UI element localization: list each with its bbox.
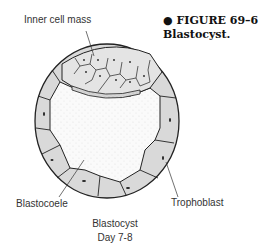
figure-number-text: FIGURE 69–6	[176, 14, 258, 27]
diagram-subtitle: Day 7-8	[80, 232, 150, 243]
figure-number: ● FIGURE 69–6	[163, 14, 258, 27]
label-inner-cell-mass: Inner cell mass	[24, 14, 91, 25]
bullet-icon: ●	[163, 14, 173, 27]
blastocyst-diagram	[0, 0, 272, 248]
label-blastocoele: Blastocoele	[16, 198, 68, 209]
label-trophoblast: Trophoblast	[171, 197, 223, 208]
diagram-title: Blastocyst	[80, 218, 150, 229]
figure-caption: Blastocyst.	[163, 28, 230, 41]
leader-trophoblast	[166, 162, 178, 197]
